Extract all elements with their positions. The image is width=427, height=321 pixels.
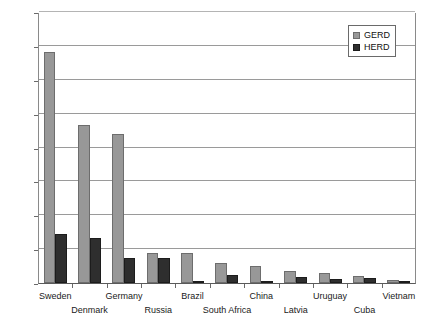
x-axis-tick-mark bbox=[382, 284, 383, 288]
x-axis-label: China bbox=[250, 291, 274, 301]
bar-group bbox=[245, 13, 279, 283]
gridline bbox=[39, 11, 415, 12]
legend-item-gerd: GERD bbox=[353, 29, 390, 41]
bar-group bbox=[39, 13, 73, 283]
bar-gerd bbox=[250, 266, 262, 283]
bar-herd bbox=[193, 281, 205, 283]
x-axis-label: Latvia bbox=[284, 305, 308, 315]
x-axis-tick-mark bbox=[141, 284, 142, 288]
bar-gerd bbox=[147, 253, 159, 283]
y-axis-tick-mark bbox=[34, 250, 38, 251]
y-axis-tick-mark bbox=[34, 216, 38, 217]
legend-swatch-gerd-icon bbox=[353, 32, 360, 39]
x-axis-tick-mark bbox=[72, 284, 73, 288]
bar-group bbox=[176, 13, 210, 283]
bar-chart: 02004006008001000120014001600 SwedenDenm… bbox=[0, 0, 427, 321]
bar-gerd bbox=[353, 276, 365, 283]
x-axis-label: Denmark bbox=[71, 305, 108, 315]
bar-group bbox=[108, 13, 142, 283]
bar-herd bbox=[296, 277, 308, 283]
bar-gerd bbox=[78, 125, 90, 283]
x-axis-label: Cuba bbox=[354, 305, 376, 315]
legend-label-herd: HERD bbox=[364, 42, 390, 52]
bar-gerd bbox=[319, 273, 331, 283]
bar-gerd bbox=[112, 134, 124, 283]
x-axis-label: Brazil bbox=[181, 291, 204, 301]
bar-herd bbox=[124, 258, 136, 283]
bar-gerd bbox=[387, 280, 399, 283]
bar-group bbox=[211, 13, 245, 283]
x-axis-label: South Africa bbox=[203, 305, 252, 315]
bar-group bbox=[142, 13, 176, 283]
x-axis-tick-mark bbox=[347, 284, 348, 288]
chart-legend: GERD HERD bbox=[348, 25, 396, 57]
y-axis-tick-mark bbox=[34, 149, 38, 150]
x-axis-tick-mark bbox=[210, 284, 211, 288]
bar-group bbox=[314, 13, 348, 283]
x-axis-tick-mark bbox=[244, 284, 245, 288]
legend-swatch-herd-icon bbox=[353, 44, 360, 51]
x-axis-tick-mark bbox=[279, 284, 280, 288]
x-axis-label: Germany bbox=[105, 291, 142, 301]
x-axis-label: Sweden bbox=[39, 291, 72, 301]
y-axis-tick-mark bbox=[34, 115, 38, 116]
legend-label-gerd: GERD bbox=[364, 30, 390, 40]
bar-herd bbox=[158, 258, 170, 283]
x-axis-label: Vietnam bbox=[382, 291, 415, 301]
y-axis-tick-mark bbox=[34, 182, 38, 183]
bar-gerd bbox=[284, 271, 296, 283]
x-axis-label: Uruguay bbox=[313, 291, 347, 301]
y-axis-tick-mark bbox=[34, 81, 38, 82]
y-axis-tick-mark bbox=[34, 47, 38, 48]
y-axis-tick-mark bbox=[34, 284, 38, 285]
x-axis-tick-mark bbox=[107, 284, 108, 288]
legend-item-herd: HERD bbox=[353, 41, 390, 53]
bar-herd bbox=[330, 279, 342, 283]
bar-gerd bbox=[215, 263, 227, 283]
bar-gerd bbox=[181, 253, 193, 283]
y-axis-tick-mark bbox=[34, 13, 38, 14]
x-axis-tick-mark bbox=[175, 284, 176, 288]
bar-herd bbox=[364, 278, 376, 283]
x-axis-label: Russia bbox=[145, 305, 173, 315]
bar-herd bbox=[90, 238, 102, 283]
bar-group bbox=[280, 13, 314, 283]
bar-group bbox=[73, 13, 107, 283]
bar-gerd bbox=[44, 52, 56, 283]
bar-herd bbox=[399, 281, 411, 283]
bar-herd bbox=[55, 234, 67, 283]
bar-herd bbox=[227, 275, 239, 283]
bar-herd bbox=[261, 281, 273, 283]
x-axis-tick-mark bbox=[313, 284, 314, 288]
